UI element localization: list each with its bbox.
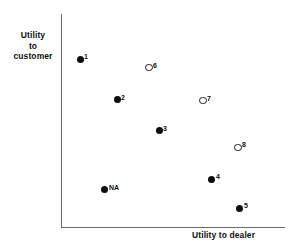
- data-point-label: 2: [121, 94, 125, 102]
- data-point-label: 6: [153, 62, 157, 70]
- scatter-chart: Utility to customer Utility to dealer 16…: [0, 0, 301, 248]
- x-axis-line: [61, 227, 285, 228]
- data-point-label: 8: [242, 141, 246, 149]
- marker-filled-icon: [101, 186, 108, 193]
- marker-open-icon: [234, 144, 242, 152]
- y-axis-line: [61, 14, 62, 228]
- y-axis-title: Utility to customer: [7, 30, 59, 62]
- marker-filled-icon: [208, 176, 215, 183]
- data-point-label: 4: [216, 173, 220, 181]
- marker-filled-icon: [236, 205, 243, 212]
- data-point-label: 7: [207, 95, 211, 103]
- marker-filled-icon: [114, 96, 121, 103]
- data-point-label: 5: [244, 202, 248, 210]
- x-axis-title: Utility to dealer: [192, 230, 292, 241]
- data-point-label: 1: [84, 53, 88, 61]
- marker-open-icon: [199, 97, 207, 105]
- marker-filled-icon: [77, 56, 84, 63]
- marker-filled-icon: [156, 127, 163, 134]
- marker-open-icon: [145, 64, 153, 72]
- data-point-label: NA: [109, 184, 119, 192]
- data-point-label: 3: [163, 125, 167, 133]
